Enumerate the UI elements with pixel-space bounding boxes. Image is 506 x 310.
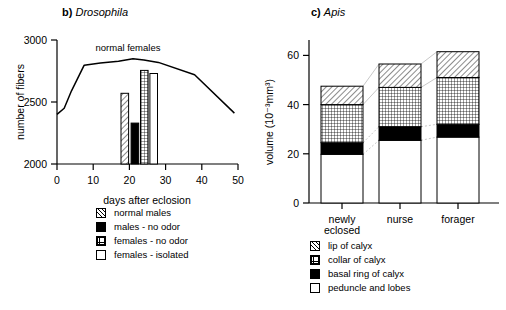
legend-label: males - no odor (114, 222, 180, 232)
category-label: nurse (387, 213, 413, 225)
legend-label: lip of calyx (328, 241, 372, 251)
panel-title-apis: c) Apis (311, 6, 345, 18)
panel-apis: c) Apis 60 (253, 0, 506, 310)
stacked-bar-nurse (379, 64, 421, 203)
segment-basal-ring-of-calyx (321, 143, 363, 155)
segment-peduncle-and-lobes (321, 154, 363, 203)
swatch-open-white-icon (96, 250, 106, 260)
panel-tag: b) (62, 6, 72, 18)
legend-item-peduncle-and-lobes: peduncle and lobes (310, 281, 410, 295)
panel-drosophila: b) Drosophila (0, 0, 253, 310)
legend-label: normal males (114, 208, 171, 218)
legend-item-normal-males: normal males (96, 206, 188, 220)
y-tick-labels-drosophila: 3000 2500 2000 (24, 34, 48, 170)
swatch-cross-hatch-icon (96, 236, 106, 246)
segment-lip-of-calyx (379, 64, 421, 87)
legend-item-males-no-odor: males - no odor (96, 220, 188, 234)
legend-item-females-no-odor: females - no odor (96, 234, 188, 248)
x-axis-label-drosophila: days after eclosion (103, 194, 191, 206)
x-tick-label: 10 (87, 174, 99, 186)
segment-collar-of-calyx (321, 105, 363, 143)
segment-lip-of-calyx (321, 86, 363, 104)
segment-collar-of-calyx (437, 78, 479, 125)
swatch-diagonal-hatch-icon (96, 208, 106, 218)
x-tick-label: 50 (232, 174, 244, 186)
segment-peduncle-and-lobes (379, 140, 421, 203)
category-labels-apis: newly eclosed nurse forager (324, 213, 475, 236)
swatch-solid-black-icon (310, 269, 320, 279)
y-axis-label-drosophila: number of fibers (14, 64, 26, 140)
x-tick-label: 0 (54, 174, 60, 186)
swatch-cross-hatch-icon (310, 255, 320, 265)
segment-peduncle-and-lobes (437, 137, 479, 203)
bar-normal-males (121, 93, 129, 164)
x-tick-label: 40 (196, 174, 208, 186)
legend-drosophila: normal males males - no odor females - n… (96, 206, 188, 262)
swatch-open-white-icon (310, 283, 320, 293)
legend-item-collar-of-calyx: collar of calyx (310, 253, 410, 267)
chart-drosophila: 3000 2500 2000 0 10 20 30 40 50 days aft… (0, 18, 253, 218)
y-tick-label: 0 (293, 197, 299, 209)
y-tick-label: 3000 (24, 34, 48, 46)
legend-label: collar of calyx (328, 255, 386, 265)
segment-collar-of-calyx (379, 87, 421, 126)
y-tick-label: 40 (287, 99, 299, 111)
swatch-solid-black-icon (96, 222, 106, 232)
x-tick-labels-drosophila: 0 10 20 30 40 50 (54, 174, 244, 186)
segment-basal-ring-of-calyx (437, 124, 479, 137)
legend-item-females-isolated: females - isolated (96, 248, 188, 262)
bar-females-no-odor (141, 70, 149, 164)
x-tick-label: 20 (124, 174, 136, 186)
bar-females-isolated (150, 74, 158, 165)
stacked-bar-newly-eclosed (321, 86, 363, 203)
legend-label: basal ring of calyx (328, 269, 404, 279)
legend-label: females - isolated (114, 250, 188, 260)
panel-species-name: Drosophila (75, 6, 128, 18)
category-label-line2: eclosed (324, 224, 360, 236)
y-axis-label-apis: volume (10⁻³mm³) (263, 79, 275, 165)
y-tick-label: 2000 (24, 158, 48, 170)
legend-label: peduncle and lobes (328, 283, 410, 293)
panel-species-name: Apis (324, 6, 345, 18)
legend-item-basal-ring-of-calyx: basal ring of calyx (310, 267, 410, 281)
category-label: forager (441, 213, 475, 225)
line-annotation-normal-females: normal females (96, 42, 161, 53)
y-tick-labels-apis: 60 40 20 0 (287, 49, 299, 209)
legend-apis: lip of calyx collar of calyx basal ring … (310, 239, 410, 295)
segment-basal-ring-of-calyx (379, 127, 421, 141)
legend-item-lip-of-calyx: lip of calyx (310, 239, 410, 253)
panel-tag: c) (311, 6, 321, 18)
stacked-bar-forager (437, 52, 479, 203)
bars-drosophila (121, 70, 158, 164)
y-tick-label: 20 (287, 148, 299, 160)
bar-males-no-odor (131, 123, 139, 164)
legend-label: females - no odor (114, 236, 188, 246)
chart-apis: 60 40 20 0 volume (10⁻³mm³) (253, 18, 506, 248)
x-tick-label: 30 (160, 174, 172, 186)
swatch-diagonal-hatch-icon (310, 241, 320, 251)
y-tick-label: 2500 (24, 96, 48, 108)
segment-lip-of-calyx (437, 52, 479, 78)
panel-title-drosophila: b) Drosophila (62, 6, 128, 18)
y-tick-label: 60 (287, 49, 299, 61)
